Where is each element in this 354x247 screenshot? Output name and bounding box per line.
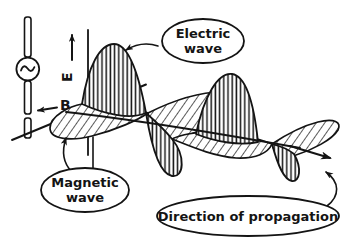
- antenna-rod-lower: [25, 81, 32, 114]
- electric-wave-crest-1: [82, 44, 146, 116]
- callout-electric-wave: Electric wave: [126, 19, 244, 63]
- callout-electric-wave-leader: [126, 44, 158, 50]
- magnetic-axis-arrow: [38, 108, 57, 111]
- callout-magnetic-wave-line2: wave: [66, 190, 104, 205]
- electric-wave-crest-2: [196, 74, 258, 144]
- callout-direction-label: Direction of propagation: [158, 209, 338, 224]
- callout-magnetic-wave: Magnetic wave: [41, 137, 129, 212]
- antenna-assembly: [16, 17, 39, 138]
- callout-direction-leader: [326, 172, 337, 206]
- antenna-rod-upper: [25, 17, 32, 57]
- electric-axis-label: E: [59, 72, 75, 82]
- callout-electric-wave-line2: wave: [184, 41, 222, 56]
- em-wave-diagram: B E: [0, 0, 354, 247]
- figure-canvas: B E: [0, 0, 354, 247]
- callout-direction-of-propagation: Direction of propagation: [157, 172, 339, 236]
- callout-magnetic-wave-leader: [64, 138, 72, 172]
- callout-magnetic-wave-line1: Magnetic: [51, 175, 118, 190]
- callout-electric-wave-line1: Electric: [176, 26, 231, 41]
